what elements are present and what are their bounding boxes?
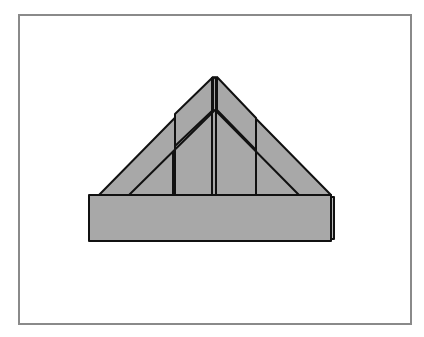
brim-fold-edge <box>331 197 334 239</box>
origami-hat-diagram <box>0 0 424 337</box>
brim-band <box>89 195 331 241</box>
